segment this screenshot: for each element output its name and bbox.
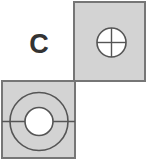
diagram-canvas xyxy=(0,0,149,166)
ring-icon xyxy=(10,93,68,151)
tile-top-right xyxy=(74,2,145,81)
crosshair-circle-icon xyxy=(97,28,126,57)
inner-circle xyxy=(25,108,53,136)
tile-bottom-left xyxy=(2,81,75,158)
